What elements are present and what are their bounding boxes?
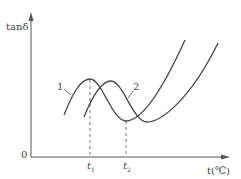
y-axis-arrow-icon [29,12,34,21]
t2-tick-label: t2 [123,161,131,173]
curve-2-leader [128,91,133,98]
t1-tick-label: t1 [87,161,95,173]
curve-2-label: 2 [133,82,139,92]
curve-1-label: 1 [57,82,63,92]
y-axis-label: tanδ [6,22,28,32]
curve-2 [84,43,218,122]
chart-svg [0,0,241,179]
x-axis-arrow-icon [221,155,230,160]
origin-label: 0 [21,150,27,160]
curve-1 [64,40,185,121]
curve-1-leader [64,89,71,95]
t1-subscript: 1 [91,166,95,173]
chart: tanδ 0 t1 t2 t(℃) 1 2 [0,0,241,179]
t2-subscript: 2 [127,166,131,173]
x-axis-label: t(℃) [207,166,230,176]
